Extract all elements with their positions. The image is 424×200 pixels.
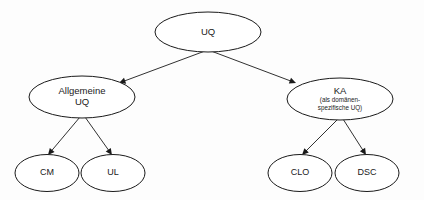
node-ka[interactable]: KA(als domänen-spezifische UQ) — [287, 78, 393, 120]
edge-allgemeine-cm — [48, 117, 80, 155]
edge-uq-allgemeine — [119, 51, 205, 84]
nodes-layer: UQAllgemeineUQKA(als domänen-spezifische… — [15, 12, 399, 192]
node-uq[interactable]: UQ — [155, 12, 261, 52]
edge-uq-ka — [211, 51, 296, 84]
node-sublabel: spezifische UQ) — [318, 104, 362, 112]
node-label: KA — [334, 85, 347, 96]
node-allgemeine-uq[interactable]: AllgemeineUQ — [29, 76, 135, 118]
edge-allgemeine-ul — [85, 117, 112, 155]
node-label: UQ — [201, 26, 215, 37]
diagram-svg: UQAllgemeineUQKA(als domänen-spezifische… — [0, 0, 424, 200]
edge-line — [124, 51, 205, 81]
node-ul[interactable]: UL — [81, 155, 145, 192]
edge-ka-clo — [302, 119, 338, 155]
edge-line — [85, 117, 109, 151]
diagram-canvas: UQAllgemeineUQKA(als domänen-spezifische… — [0, 0, 424, 200]
node-label: Allgemeine — [59, 85, 106, 96]
edge-line — [211, 51, 291, 81]
arrow-head-icon — [106, 148, 112, 155]
node-label: DSC — [357, 167, 377, 177]
edge-ka-dsc — [343, 119, 366, 155]
node-label: UL — [107, 167, 119, 177]
node-clo[interactable]: CLO — [268, 155, 332, 192]
node-label: CM — [40, 167, 54, 177]
node-cm[interactable]: CM — [15, 155, 79, 192]
node-label: CLO — [291, 167, 310, 177]
arrow-head-icon — [360, 148, 366, 155]
node-dsc[interactable]: DSC — [335, 155, 399, 192]
node-sublabel: UQ — [75, 96, 89, 107]
edge-line — [306, 119, 338, 151]
edge-line — [343, 119, 363, 151]
edge-line — [51, 117, 80, 151]
